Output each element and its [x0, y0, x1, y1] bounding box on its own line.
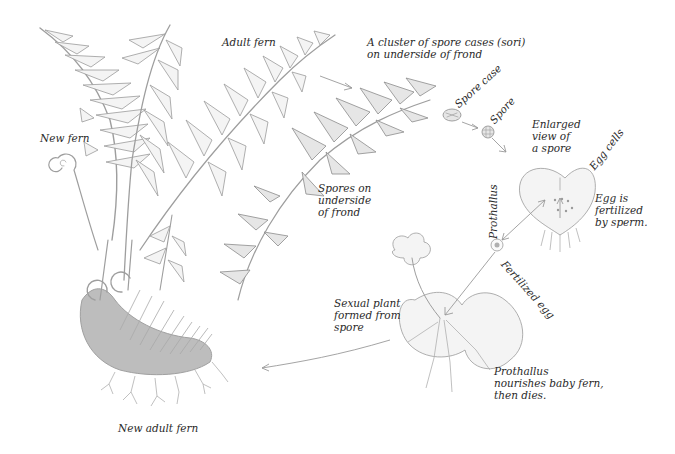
label-sexual-plant-line1: Sexual plant	[334, 297, 400, 309]
label-prothallus-nourishes-line1: Prothallus	[494, 365, 549, 377]
young-fern-base-drawing	[80, 240, 228, 406]
label-enlarged-line1: Enlarged	[532, 118, 581, 130]
fern-life-cycle-diagram: Adult fern A cluster of spore cases (sor…	[0, 0, 675, 454]
label-prothallus-nourishes-line3: then dies.	[494, 389, 546, 401]
label-spore-cluster-line2: on underside of frond	[367, 48, 482, 60]
label-new-adult-fern: New adult fern	[118, 422, 198, 434]
label-enlarged-line3: a spore	[532, 142, 571, 154]
label-spores-underside-line2: underside	[318, 194, 371, 206]
adult-fern-drawing	[40, 25, 436, 300]
label-spores-underside-line1: Spores on	[318, 182, 371, 194]
label-egg-fertilized-line3: by sperm.	[595, 216, 648, 228]
label-new-fern: New fern	[40, 132, 90, 144]
spore-drawing	[482, 126, 494, 138]
label-egg-fertilized-line2: fertilized	[595, 204, 643, 216]
fertilized-egg-drawing	[491, 239, 503, 251]
enlarged-prothallus-drawing	[519, 168, 595, 252]
label-adult-fern: Adult fern	[222, 36, 276, 48]
label-spore-cluster-line1: A cluster of spore cases (sori)	[367, 36, 525, 48]
label-spores-underside-line3: of frond	[318, 206, 360, 218]
label-prothallus-vertical: Prothallus	[487, 184, 499, 239]
label-prothallus-nourishes-line2: nourishes baby fern,	[494, 377, 604, 389]
label-enlarged-line2: view of	[532, 130, 570, 142]
label-sexual-plant-line2: formed from	[334, 309, 401, 321]
spore-case-drawing	[443, 109, 461, 121]
label-sexual-plant-line3: spore	[334, 321, 364, 333]
label-egg-fertilized-line1: Egg is	[595, 192, 628, 204]
new-fern-fiddlehead-drawing	[49, 154, 98, 250]
